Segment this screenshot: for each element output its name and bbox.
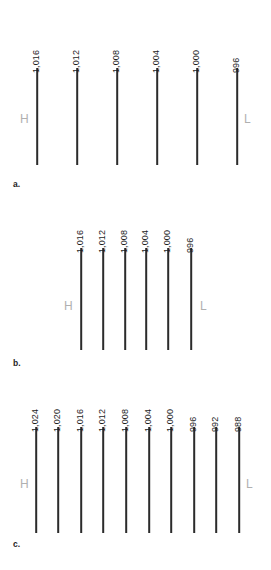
isobar-line — [196, 68, 198, 165]
isobar-line — [57, 427, 59, 533]
isobar-label: 1,008 — [120, 230, 129, 253]
isobar-line — [236, 68, 238, 165]
isobar-line — [35, 427, 37, 533]
isobar-line — [36, 68, 38, 165]
isobar-line — [124, 248, 126, 350]
isobar-label: 1,000 — [192, 50, 201, 73]
low-pressure-marker: L — [246, 478, 253, 490]
isobar-line — [76, 68, 78, 165]
low-pressure-marker: L — [200, 300, 207, 312]
isobar-label: 1,004 — [141, 230, 150, 253]
isobar-line — [193, 427, 195, 533]
isobar-label: 1,004 — [144, 409, 153, 432]
isobar-line — [102, 427, 104, 533]
isobar-line — [148, 427, 150, 533]
isobar-line — [102, 248, 104, 350]
isobar-label: 1,008 — [121, 409, 130, 432]
isobar-label: 1,000 — [163, 230, 172, 253]
isobar-line — [156, 68, 158, 165]
isobar-line — [190, 248, 192, 350]
isobar-label: 996 — [189, 417, 198, 432]
isobar-label: 1,012 — [98, 409, 107, 432]
isobar-line — [80, 248, 82, 350]
isobar-label: 1,016 — [76, 409, 85, 432]
isobar-label: 992 — [211, 417, 220, 432]
isobar-label: 996 — [186, 238, 195, 253]
isobar-label: 1,012 — [72, 50, 81, 73]
panel-caption: a. — [13, 180, 20, 189]
panel-caption: c. — [13, 540, 20, 549]
isobar-line — [125, 427, 127, 533]
isobar-label: 1,016 — [32, 50, 41, 73]
isobar-label: 1,008 — [112, 50, 121, 73]
isobar-line — [215, 427, 217, 533]
panel-caption: b. — [13, 359, 21, 368]
isobar-line — [170, 427, 172, 533]
isobar-label: 1,000 — [166, 409, 175, 432]
isobar-line — [238, 427, 240, 533]
isobar-label: 1,024 — [31, 409, 40, 432]
isobar-label: 1,004 — [152, 50, 161, 73]
isobar-label: 996 — [232, 58, 241, 73]
high-pressure-marker: H — [20, 113, 29, 125]
isobar-label: 1,020 — [53, 409, 62, 432]
isobar-line — [167, 248, 169, 350]
high-pressure-marker: H — [64, 300, 73, 312]
isobar-label: 988 — [234, 417, 243, 432]
low-pressure-marker: L — [244, 113, 251, 125]
isobar-label: 1,016 — [76, 230, 85, 253]
isobar-line — [145, 248, 147, 350]
high-pressure-marker: H — [20, 478, 29, 490]
isobar-line — [116, 68, 118, 165]
isobar-line — [80, 427, 82, 533]
isobar-label: 1,012 — [98, 230, 107, 253]
